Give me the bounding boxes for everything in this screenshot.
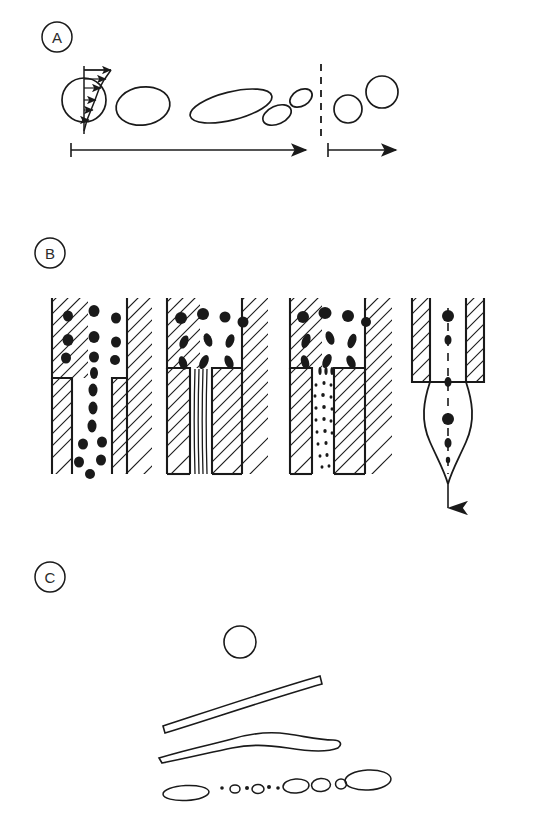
panel-c-letter: C	[45, 569, 56, 586]
panel-a-letter: A	[52, 29, 62, 46]
panel-b-letter: B	[45, 245, 55, 262]
figure-canvas: A	[0, 0, 533, 829]
scientific-figure: A	[0, 0, 533, 829]
